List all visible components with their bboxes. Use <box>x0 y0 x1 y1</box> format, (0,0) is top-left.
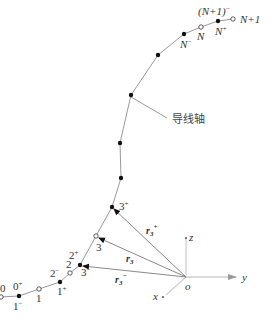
label-2-minus: 2− <box>50 267 60 279</box>
label-0-plus: 0+ <box>13 280 23 292</box>
label-N-minus: N− <box>179 38 192 50</box>
axis-labels: o y z x <box>152 231 247 302</box>
node-mid-1 <box>119 176 123 180</box>
x-axis-tip <box>162 296 164 298</box>
node-mid-2 <box>118 141 122 145</box>
node-mid-4 <box>156 53 160 57</box>
label-1-minus: 1− <box>13 300 23 312</box>
nodes <box>0 17 235 299</box>
node-N <box>199 25 203 29</box>
node-0 <box>0 295 3 299</box>
vector-label-r3-minus: r3− <box>115 272 127 287</box>
wire-axis-diagram: 0 0+ 1− 1 1+ 2− 2 2+ 3− 3 3+ N− N N+ (N+… <box>0 0 278 327</box>
node-1 <box>37 287 41 291</box>
node-2 <box>68 271 72 275</box>
label-N1-minus: (N+1)− <box>198 5 231 18</box>
wire-axis-label: 导线轴 <box>172 112 205 126</box>
node-N-plus <box>216 19 220 23</box>
x-axis-label: x <box>152 290 158 302</box>
node-mid-3 <box>129 93 133 97</box>
label-1-plus: 1+ <box>57 285 67 297</box>
label-N: N <box>196 30 205 42</box>
vector-label-r3-plus: r3+ <box>146 223 157 238</box>
label-3: 3 <box>96 241 102 253</box>
axis-label-leader <box>131 97 167 118</box>
vector-label-r3: r3 <box>126 253 134 266</box>
label-3-plus: 3+ <box>119 200 129 212</box>
y-axis-label: y <box>241 271 247 283</box>
coordinate-frame <box>162 237 236 298</box>
vector-r3-plus <box>114 209 186 277</box>
origin-label: o <box>185 280 191 292</box>
label-0: 0 <box>0 282 6 294</box>
node-3 <box>94 234 98 238</box>
label-N1: N+1 <box>239 13 260 25</box>
label-1: 1 <box>36 292 42 304</box>
node-0plus-1minus <box>17 294 21 298</box>
wire-axis-curve <box>0 19 233 297</box>
z-axis-tip <box>185 237 187 239</box>
vector-r3-minus <box>83 266 186 277</box>
node-N-minus <box>182 32 186 36</box>
label-2-plus: 2+ <box>69 249 79 261</box>
vector-r3 <box>99 238 186 277</box>
node-3plus <box>110 205 114 209</box>
label-N-plus: N+ <box>214 25 227 37</box>
label-3-minus: 3− <box>81 266 91 278</box>
z-axis-label: z <box>188 231 194 243</box>
node-1plus-2minus <box>58 280 62 284</box>
x-axis <box>166 277 186 295</box>
node-N1 <box>231 17 235 21</box>
